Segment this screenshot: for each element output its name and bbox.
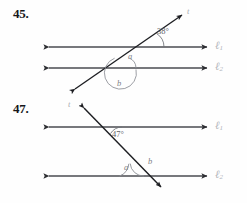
angle-label-a: a — [128, 52, 132, 61]
ell-subscript: 1 — [220, 44, 224, 52]
angle-label-38-degree: 38° — [157, 27, 169, 36]
arc-angle-b — [130, 164, 144, 176]
transversal-label-t: t — [68, 100, 70, 109]
angle-label-47-degree: 47° — [112, 130, 124, 139]
figure-47 — [49, 108, 207, 187]
angle-label-b: b — [148, 157, 152, 166]
worksheet-page: 45. 47. — [0, 0, 247, 203]
angle-label-b: b — [117, 79, 121, 88]
geometry-figures — [0, 0, 247, 203]
line-label-ell-2: ℓ2 — [215, 61, 223, 73]
ell-subscript: 1 — [220, 124, 224, 132]
line-label-ell-1: ℓ1 — [215, 120, 223, 132]
line-label-ell-2: ℓ2 — [215, 169, 223, 181]
ell-subscript: 2 — [220, 173, 224, 181]
transversal-t — [84, 108, 161, 187]
transversal-label-t: t — [187, 7, 189, 16]
line-label-ell-1: ℓ1 — [215, 40, 223, 52]
ell-subscript: 2 — [220, 65, 224, 73]
angle-label-a: a — [124, 163, 128, 172]
